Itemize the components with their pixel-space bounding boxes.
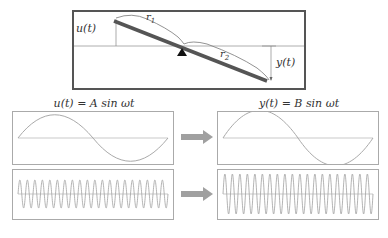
lever-diagram: [72, 10, 306, 90]
y-arrow-head-icon: [270, 77, 273, 81]
output-low-freq-wave: [217, 111, 379, 165]
y-label: y(t): [276, 56, 295, 69]
output-high-freq-wave: [217, 169, 379, 220]
r1-label: r1: [146, 11, 155, 25]
r2-label: r2: [220, 48, 229, 62]
input-high-freq-wave: [12, 169, 174, 220]
input-low-freq-wave: [12, 111, 174, 165]
arrow-right-icon: [181, 187, 213, 201]
arrow-right-icon: [181, 130, 213, 144]
output-signal-title: y(t) = B sin ωt: [245, 97, 353, 110]
input-signal-title: u(t) = A sin ωt: [40, 97, 148, 110]
lever-bar: [114, 21, 267, 81]
u-label: u(t): [76, 22, 96, 35]
